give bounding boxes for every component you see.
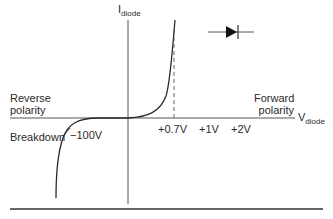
tick-label-minus-100v: −100V bbox=[70, 129, 102, 141]
forward-polarity-label: Forward polarity bbox=[254, 92, 294, 116]
forward-label-line1: Forward bbox=[254, 92, 290, 104]
forward-curve bbox=[128, 20, 175, 118]
forward-label-line2: polarity bbox=[254, 104, 294, 116]
y-axis-label: Idiode bbox=[118, 3, 141, 17]
reverse-polarity-label: Reverse polarity bbox=[10, 92, 51, 116]
x-axis-label: Vdiode bbox=[298, 111, 325, 125]
x-axis-label-sub: diode bbox=[305, 117, 325, 126]
reverse-label-line1: Reverse bbox=[10, 92, 51, 104]
tick-label-2v: +2V bbox=[231, 123, 251, 135]
reverse-label-line2: polarity bbox=[10, 104, 51, 116]
y-axis-label-sub: diode bbox=[121, 9, 141, 18]
tick-label-0-7v: +0.7V bbox=[158, 123, 187, 135]
diode-symbol-icon bbox=[208, 25, 254, 39]
tick-label-1v: +1V bbox=[199, 123, 219, 135]
breakdown-label: Breakdown bbox=[10, 131, 65, 143]
